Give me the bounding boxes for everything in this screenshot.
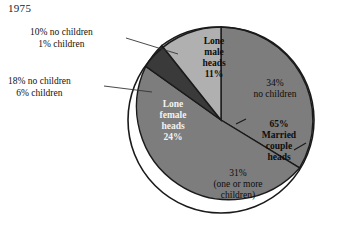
slice-label-lone-male-heads: Lone male heads 11% bbox=[186, 36, 242, 80]
slice-label-lone-male-line-1: Lone bbox=[186, 36, 242, 47]
slice-label-lone-male-line-3: heads bbox=[186, 58, 242, 69]
annotation-lone-male-line-1: 10% no children bbox=[30, 27, 93, 39]
slice-label-lone-male-line-4: 11% bbox=[186, 69, 242, 80]
pie-chart-figure: 1975 10% no children 1% children 18% no … bbox=[0, 0, 338, 228]
slice-label-lone-female-heads: Lone female heads 24% bbox=[140, 99, 206, 143]
group-label-married-couple-heads: 65% Married couple heads bbox=[248, 119, 310, 163]
slice-label-no-children-line-1: 34% bbox=[238, 78, 312, 89]
slice-label-lone-male-line-2: male bbox=[186, 47, 242, 58]
slice-label-married-with-children: 31% (one or more children) bbox=[186, 168, 290, 201]
slice-label-lone-female-line-1: Lone bbox=[140, 99, 206, 110]
annotation-lone-male-breakdown: 10% no children 1% children bbox=[30, 27, 93, 50]
annotation-lone-female-line-1: 18% no children bbox=[8, 76, 71, 88]
slice-label-with-children-line-1: 31% bbox=[186, 168, 290, 179]
group-label-married-line-4: heads bbox=[248, 152, 310, 163]
group-label-married-line-2: Married bbox=[248, 130, 310, 141]
slice-label-married-no-children: 34% no children bbox=[238, 78, 312, 100]
slice-label-no-children-line-2: no children bbox=[238, 89, 312, 100]
annotation-lone-female-breakdown: 18% no children 6% children bbox=[8, 76, 71, 99]
annotation-lone-female-line-2: 6% children bbox=[8, 88, 71, 100]
slice-label-with-children-line-3: children) bbox=[186, 190, 290, 201]
annotation-lone-male-line-2: 1% children bbox=[30, 39, 93, 51]
group-label-married-line-3: couple bbox=[248, 141, 310, 152]
group-label-married-line-1: 65% bbox=[248, 119, 310, 130]
slice-label-lone-female-line-4: 24% bbox=[140, 132, 206, 143]
slice-label-lone-female-line-3: heads bbox=[140, 121, 206, 132]
slice-label-with-children-line-2: (one or more bbox=[186, 179, 290, 190]
slice-label-lone-female-line-2: female bbox=[140, 110, 206, 121]
